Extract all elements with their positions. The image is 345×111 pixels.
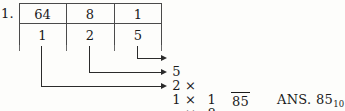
problem-number: 1. (1, 6, 14, 21)
arrow-icon-5 (161, 55, 167, 61)
connector-vertical-2 (89, 46, 90, 73)
table-stub-1 (66, 45, 67, 51)
weight-cell-8: 8 (66, 6, 114, 24)
connector-horizontal-5 (137, 58, 163, 59)
arrow-icon-1 (161, 83, 167, 89)
connector-horizontal-2 (89, 72, 163, 73)
answer-subscript: 10 (333, 99, 344, 109)
answer-value: 85 (316, 92, 333, 107)
table-stub-right (161, 45, 162, 51)
weight-cell-64: 64 (19, 6, 66, 24)
place-value-table: 64 8 1 1 2 5 (19, 3, 162, 45)
eq1-equals: = (220, 107, 231, 111)
table-stub-2 (114, 45, 115, 51)
weight-cell-1: 1 (114, 6, 162, 24)
connector-horizontal-1 (41, 86, 163, 87)
eq3-digit: 1 (172, 93, 181, 107)
answer-label: ANS. 8510 (277, 92, 345, 107)
eq2-weight: 8 (198, 107, 216, 111)
sum-total: 85 (232, 95, 249, 109)
worked-example-figure: 1. 64 8 1 1 2 5 5 × 1 = 5 2 × (0, 0, 345, 111)
eq1-weight: 1 (198, 93, 216, 107)
digit-cell-5: 5 (114, 27, 162, 45)
eq3-times: × (185, 107, 196, 111)
table-stub-left (19, 45, 20, 51)
equation-row-3: 1 × 64 = 64 (172, 79, 190, 111)
answer-prefix: ANS. (277, 92, 312, 107)
connector-vertical-1 (41, 46, 42, 87)
digit-cell-2: 2 (66, 27, 114, 45)
arrow-icon-2 (161, 69, 167, 75)
table-border-top (19, 3, 162, 4)
digit-cell-1: 1 (19, 27, 66, 45)
